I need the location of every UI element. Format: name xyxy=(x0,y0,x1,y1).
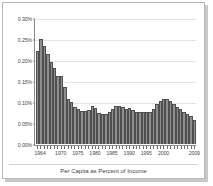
x-tick-mark xyxy=(133,146,134,149)
x-tick-mark xyxy=(102,146,103,149)
x-tick-mark xyxy=(68,146,69,149)
x-tick-label: 1995 xyxy=(141,150,152,157)
x-tick-mark xyxy=(170,146,171,149)
x-tick-mark xyxy=(109,146,110,149)
x-tick-mark xyxy=(143,146,144,149)
x-tick-mark xyxy=(71,146,72,149)
x-tick-label: 2000 xyxy=(158,150,169,157)
figure-caption: Per Capita as Percent of Income xyxy=(3,167,204,176)
y-tick-mark xyxy=(33,103,35,104)
x-tick-mark xyxy=(78,146,79,149)
x-tick-mark xyxy=(74,146,75,149)
bar-chart: 0.30%0.25%0.20%0.15%0.10%0.05%0.00% 1964… xyxy=(3,3,204,163)
x-tick-label: 1980 xyxy=(89,150,100,157)
x-tick-label: 2009 xyxy=(189,150,200,157)
x-tick-mark xyxy=(146,146,147,149)
y-tick-label: 0.25% xyxy=(18,37,32,43)
y-tick-label: 0.20% xyxy=(18,58,32,64)
x-tick-mark xyxy=(160,146,161,149)
x-tick-mark xyxy=(191,146,192,149)
y-tick-mark xyxy=(33,124,35,125)
x-tick-label: 1985 xyxy=(106,150,117,157)
x-tick-mark xyxy=(40,146,41,149)
x-tick-mark xyxy=(187,146,188,149)
y-tick-label: 0.05% xyxy=(18,121,32,127)
x-tick-mark xyxy=(64,146,65,149)
x-tick-mark xyxy=(153,146,154,149)
x-tick-mark xyxy=(88,146,89,149)
x-axis: 196419701975198019851990199520002009 xyxy=(34,146,196,164)
x-tick-mark xyxy=(98,146,99,149)
x-tick-mark xyxy=(112,146,113,149)
y-tick-label: 0.00% xyxy=(18,142,32,148)
y-tick-mark xyxy=(33,61,35,62)
x-tick-mark xyxy=(157,146,158,149)
x-tick-mark xyxy=(44,146,45,149)
x-tick-mark xyxy=(181,146,182,149)
plot-area: 0.30%0.25%0.20%0.15%0.10%0.05%0.00% xyxy=(34,19,196,146)
x-tick-label: 1970 xyxy=(55,150,66,157)
x-tick-mark xyxy=(150,146,151,149)
x-tick-mark xyxy=(116,146,117,149)
x-tick-label: 1975 xyxy=(72,150,83,157)
x-tick-mark xyxy=(81,146,82,149)
x-tick-mark xyxy=(47,146,48,149)
x-tick-mark xyxy=(61,146,62,149)
y-tick-label: 0.15% xyxy=(18,79,32,85)
x-tick-mark xyxy=(57,146,58,149)
y-tick-label: 0.10% xyxy=(18,100,32,106)
x-tick-mark xyxy=(129,146,130,149)
x-tick-mark xyxy=(167,146,168,149)
caption-divider xyxy=(9,164,198,165)
x-tick-label: 1964 xyxy=(35,150,46,157)
y-tick-mark xyxy=(33,82,35,83)
bar-series xyxy=(36,19,196,144)
x-tick-mark xyxy=(163,146,164,149)
x-tick-mark xyxy=(126,146,127,149)
x-tick-mark xyxy=(54,146,55,149)
x-tick-mark xyxy=(174,146,175,149)
x-tick-mark xyxy=(194,146,195,149)
figure-frame: 0.30%0.25%0.20%0.15%0.10%0.05%0.00% 1964… xyxy=(2,2,205,179)
x-tick-label: 1990 xyxy=(124,150,135,157)
bar xyxy=(193,120,196,144)
y-tick-label: 0.30% xyxy=(18,16,32,22)
x-tick-mark xyxy=(37,146,38,149)
x-tick-mark xyxy=(177,146,178,149)
y-tick-mark xyxy=(33,19,35,20)
x-tick-mark xyxy=(92,146,93,149)
x-tick-mark xyxy=(139,146,140,149)
y-tick-mark xyxy=(33,40,35,41)
x-tick-mark xyxy=(95,146,96,149)
x-tick-mark xyxy=(122,146,123,149)
x-tick-mark xyxy=(85,146,86,149)
x-tick-mark xyxy=(119,146,120,149)
x-tick-mark xyxy=(50,146,51,149)
x-tick-mark xyxy=(105,146,106,149)
x-tick-mark xyxy=(184,146,185,149)
x-tick-mark xyxy=(136,146,137,149)
